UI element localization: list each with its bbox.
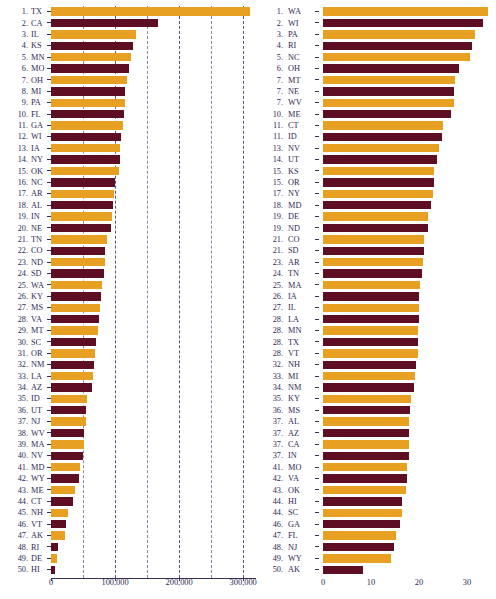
rank-label: 24.: [257, 269, 283, 278]
state-abbrev-label: ID: [288, 132, 312, 141]
bar-row: 33.MI: [255, 371, 496, 382]
bar-row: 28.MN: [255, 325, 496, 336]
state-abbrev-label: VA: [288, 474, 312, 483]
state-abbrev-label: NC: [288, 53, 312, 62]
y-axis-tick: [315, 376, 319, 377]
bar: [323, 554, 391, 562]
bar: [323, 543, 394, 551]
rank-label: 41.: [2, 463, 28, 472]
bar: [323, 486, 406, 494]
state-abbrev-label: NH: [288, 360, 312, 369]
bar: [51, 7, 250, 15]
y-axis-tick: [315, 193, 319, 194]
bar-row: 9.PA: [0, 97, 255, 108]
bar-row: 7.WV: [255, 97, 496, 108]
rank-label: 34.: [2, 383, 28, 392]
y-axis-tick: [315, 11, 319, 12]
bar-row: 5.NC: [255, 52, 496, 63]
rank-label: 19.: [257, 212, 283, 221]
bar: [323, 42, 472, 50]
bar-row: 43.ME: [0, 484, 255, 495]
bar-row: 37.AL: [255, 416, 496, 427]
state-abbrev-label: KS: [288, 167, 312, 176]
bar-row: 2.CA: [0, 17, 255, 28]
rank-label: 17.: [2, 189, 28, 198]
state-abbrev-label: WI: [288, 19, 312, 28]
bar: [323, 452, 409, 460]
bar-row: 15.KS: [255, 165, 496, 176]
y-axis-tick: [315, 455, 319, 456]
state-abbrev-label: IA: [288, 292, 312, 301]
bar-row: 50.AK: [255, 564, 496, 575]
y-axis-tick: [315, 501, 319, 502]
bar-row: 14.NY: [0, 154, 255, 165]
bar: [323, 269, 422, 277]
state-abbrev-label: OH: [288, 64, 312, 73]
left-chart-panel: 1.TX2.CA3.IL4.KS5.MN6.MO7.OH8.MI9.PA10.F…: [0, 0, 255, 599]
bar: [51, 304, 100, 312]
rank-label: 45.: [2, 508, 28, 517]
bar-row: 24.SD: [0, 268, 255, 279]
bar-row: 41.MD: [0, 462, 255, 473]
bar-row: 17.NY: [255, 188, 496, 199]
state-abbrev-label: AK: [288, 565, 312, 574]
bar: [51, 53, 131, 61]
bar-row: 28.VT: [255, 348, 496, 359]
y-axis-tick: [315, 205, 319, 206]
bar: [323, 372, 415, 380]
bar-row: 48.NJ: [255, 541, 496, 552]
y-axis-tick: [315, 569, 319, 570]
rank-label: 22.: [2, 246, 28, 255]
x-tick-label: 0: [49, 578, 53, 588]
bar-row: 19.ND: [255, 222, 496, 233]
bar: [51, 531, 65, 539]
bar-row: 50.HI: [0, 564, 255, 575]
rank-label: 27.: [2, 303, 28, 312]
bar: [51, 247, 105, 255]
y-axis-tick: [315, 136, 319, 137]
bar-row: 8.MI: [0, 86, 255, 97]
bar: [51, 110, 124, 118]
y-axis-tick: [315, 34, 319, 35]
rank-label: 28.: [257, 315, 283, 324]
state-abbrev-label: DE: [288, 212, 312, 221]
state-abbrev-label: WY: [288, 554, 312, 563]
state-abbrev-label: WV: [288, 98, 312, 107]
y-axis-tick: [315, 478, 319, 479]
y-axis-tick: [315, 296, 319, 297]
rank-label: 11.: [2, 121, 28, 130]
state-abbrev-label: GA: [288, 520, 312, 529]
bar-row: 32.NM: [0, 359, 255, 370]
bar-row: 49.WY: [255, 553, 496, 564]
rank-label: 47.: [257, 531, 283, 540]
bar: [323, 497, 402, 505]
state-abbrev-label: ND: [288, 224, 312, 233]
bar: [51, 566, 55, 574]
bar-row: 44.SC: [255, 507, 496, 518]
rank-label: 38.: [2, 429, 28, 438]
rank-label: 34.: [257, 383, 283, 392]
bar: [51, 486, 75, 494]
bar: [323, 178, 434, 186]
y-axis-tick: [315, 79, 319, 80]
bar: [323, 99, 454, 107]
rank-label: 49.: [257, 554, 283, 563]
bar-row: 25.MA: [255, 279, 496, 290]
bar-row: 13.IA: [0, 143, 255, 154]
bar: [51, 315, 99, 323]
bar-row: 10.FL: [0, 109, 255, 120]
bar: [323, 520, 400, 528]
state-abbrev-label: KY: [288, 394, 312, 403]
rank-label: 10.: [2, 110, 28, 119]
y-axis-tick: [315, 319, 319, 320]
rank-label: 20.: [2, 224, 28, 233]
y-axis-tick: [315, 558, 319, 559]
state-abbrev-label: NJ: [288, 543, 312, 552]
state-abbrev-label: MN: [288, 326, 312, 335]
rank-label: 16.: [2, 178, 28, 187]
bar-row: 21.CO: [255, 234, 496, 245]
rank-label: 1.: [257, 7, 283, 16]
bar-row: 14.UT: [255, 154, 496, 165]
two-panel-bar-chart-figure: 1.TX2.CA3.IL4.KS5.MN6.MO7.OH8.MI9.PA10.F…: [0, 0, 496, 599]
bar: [323, 110, 451, 118]
